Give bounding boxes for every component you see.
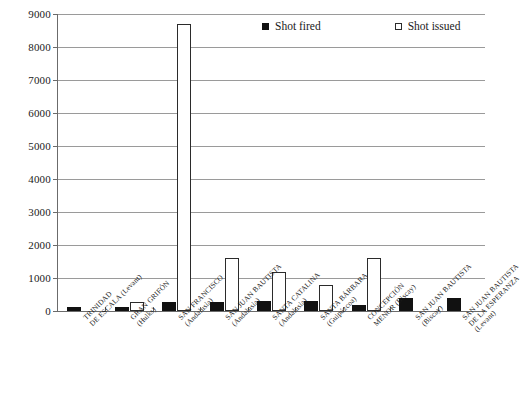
- bar-shot-fired: [162, 302, 176, 311]
- y-axis-tick-label: 6000: [28, 107, 51, 119]
- x-axis-tick-mark: [390, 307, 391, 311]
- bar-shot-issued: [367, 258, 381, 311]
- x-axis-tick-mark: [295, 307, 296, 311]
- y-axis-tick-label: 7000: [28, 74, 51, 86]
- bar-group: [438, 14, 485, 311]
- bar-shot-fired: [115, 307, 129, 311]
- y-axis-tick-label: 2000: [28, 239, 51, 251]
- y-axis-tick-label: 4000: [28, 173, 51, 185]
- x-axis-tick-mark: [105, 307, 106, 311]
- bar-group: [390, 14, 437, 311]
- x-axis-tick-mark: [200, 307, 201, 311]
- bar-shot-issued: [319, 285, 333, 311]
- x-axis-tick-mark: [248, 307, 249, 311]
- bar-shot-issued: [130, 302, 144, 311]
- bar-shot-fired: [257, 301, 271, 311]
- y-axis-tick-mark: [53, 311, 58, 312]
- x-axis-tick-mark: [153, 307, 154, 311]
- bar-shot-fired: [67, 307, 81, 311]
- bar-shot-issued: [177, 24, 191, 311]
- bar-shot-issued: [225, 258, 239, 311]
- bar-shot-fired: [447, 298, 461, 311]
- bar-group: [248, 14, 295, 311]
- bar-shot-fired: [210, 302, 224, 311]
- plot-area: 0100020003000400050006000700080009000: [57, 14, 485, 312]
- x-axis-tick-mark: [438, 307, 439, 311]
- bar-shot-fired: [304, 301, 318, 311]
- bar-group: [200, 14, 247, 311]
- y-axis-tick-label: 3000: [28, 206, 51, 218]
- bar-group: [153, 14, 200, 311]
- y-axis-tick-label: 5000: [28, 140, 51, 152]
- y-axis-tick-label: 8000: [28, 41, 51, 53]
- bar-group: [295, 14, 342, 311]
- y-axis-tick-label: 1000: [28, 272, 51, 284]
- y-axis-tick-label: 0: [45, 305, 51, 317]
- bar-shot-issued: [272, 272, 286, 311]
- bar-shot-fired: [352, 305, 366, 311]
- bar-group: [343, 14, 390, 311]
- y-axis-tick-label: 9000: [28, 8, 51, 20]
- x-axis-tick-mark: [343, 307, 344, 311]
- bar-shot-fired: [399, 298, 413, 311]
- bar-group: [58, 14, 105, 311]
- bar-group: [105, 14, 152, 311]
